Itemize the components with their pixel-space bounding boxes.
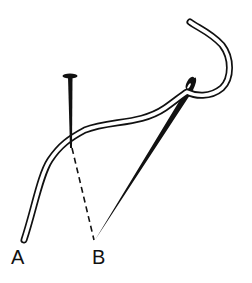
- thread-icon: [24, 22, 230, 240]
- label-b: B: [92, 247, 105, 267]
- stitch-diagram: A B: [0, 0, 252, 283]
- dashed-guide-line: [72, 148, 94, 240]
- diagram-drawing: [0, 0, 252, 283]
- label-a: A: [11, 247, 24, 267]
